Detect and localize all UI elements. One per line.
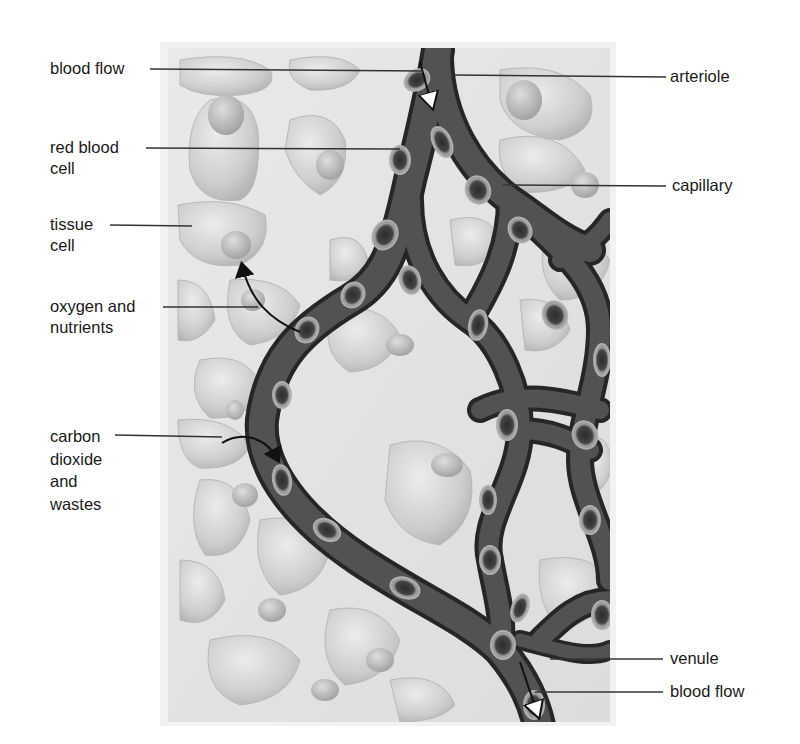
label-blood-flow-in: blood flow — [50, 58, 124, 79]
capillary-bed-diagram: blood flow red blood cell tissue cell ox… — [0, 0, 800, 744]
leader-tissue-cell — [110, 225, 192, 226]
label-oxygen-nutrients: oxygen and nutrients — [50, 296, 135, 338]
label-tissue-cell: tissue cell — [50, 214, 93, 256]
label-arteriole: arteriole — [670, 66, 730, 87]
label-venule: venule — [670, 648, 719, 669]
leader-red-blood-cell — [146, 148, 400, 149]
label-co2-wastes: carbon dioxide and wastes — [50, 425, 102, 515]
illustration — [0, 0, 800, 744]
label-red-blood-cell: red blood cell — [50, 137, 119, 179]
label-blood-flow-out: blood flow — [670, 681, 744, 702]
leader-capillary — [503, 185, 666, 186]
label-capillary: capillary — [672, 175, 733, 196]
